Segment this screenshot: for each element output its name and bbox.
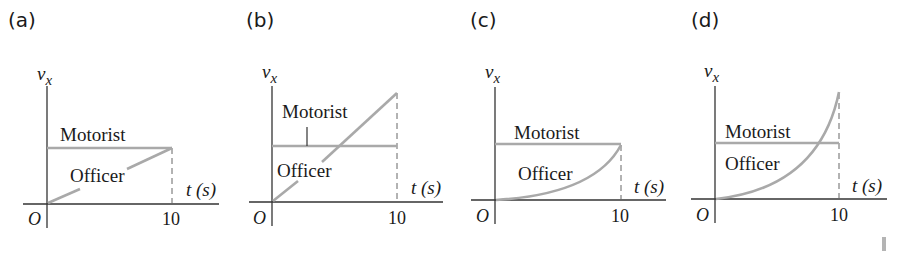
officer-line-upper [127, 148, 172, 169]
officer-line-lower [273, 181, 298, 201]
motorist-label: Motorist [725, 121, 791, 142]
origin-label: O [476, 206, 489, 226]
panel-label: (a) [8, 8, 36, 32]
x-axis-label: t (s) [186, 179, 216, 201]
y-axis-label: vx [704, 60, 719, 85]
tick-10: 10 [830, 205, 848, 225]
y-axis-label: vx [262, 61, 277, 86]
y-axis-label: vx [37, 63, 52, 88]
officer-label: Officer [725, 153, 780, 174]
tick-10: 10 [162, 209, 180, 229]
officer-line-lower [48, 189, 80, 203]
origin-label: O [696, 205, 709, 225]
origin-label: O [253, 208, 266, 228]
panel-label: (d) [691, 8, 719, 32]
tick-10: 10 [611, 206, 629, 226]
panel-d: (d) vx Motorist Officer t (s) O 10 [691, 8, 887, 225]
y-axis-label: vx [485, 61, 500, 86]
velocity-time-diagrams: (a) vx Motorist Officer t (s) O 10 (b) v… [0, 0, 917, 260]
motorist-label: Motorist [282, 101, 348, 122]
scroll-marker [882, 237, 886, 251]
officer-label: Officer [70, 165, 125, 186]
origin-label: O [28, 209, 41, 229]
officer-label: Officer [518, 163, 573, 184]
x-axis-label: t (s) [634, 176, 664, 198]
panel-a: (a) vx Motorist Officer t (s) O 10 [8, 8, 219, 229]
motorist-label: Motorist [514, 122, 580, 143]
panel-label: (c) [470, 8, 497, 32]
panel-label: (b) [246, 8, 274, 32]
x-axis-label: t (s) [852, 175, 882, 197]
officer-label: Officer [277, 160, 332, 181]
officer-curve [716, 92, 839, 199]
panel-b: (b) vx Motorist Officer t (s) O 10 [246, 8, 443, 228]
tick-10: 10 [388, 208, 406, 228]
motorist-label: Motorist [60, 124, 126, 145]
panel-c: (c) vx Motorist Officer t (s) O 10 [470, 8, 666, 226]
x-axis-label: t (s) [411, 177, 441, 199]
